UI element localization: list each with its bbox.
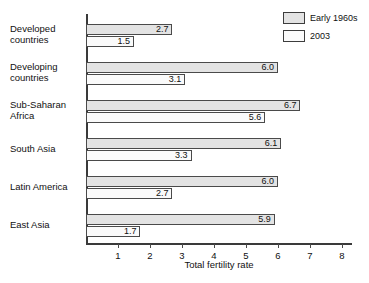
- bar-value-label: 5.9: [258, 215, 274, 224]
- category-label-south-asia: South Asia: [10, 143, 86, 155]
- x-axis-tick-1: [118, 244, 119, 248]
- bar-value-label: 2.7: [156, 189, 172, 198]
- category-label-east-asia: East Asia: [10, 219, 86, 231]
- bar-east-asia-early-1960s: 5.9: [86, 214, 275, 225]
- bar-south-asia-2003: 3.3: [86, 150, 192, 161]
- category-label-developing-countries: Developing countries: [10, 61, 86, 84]
- x-axis-tick-8: [342, 244, 343, 248]
- bar-developed-countries-2003: 1.5: [86, 36, 134, 47]
- bar-sub-saharan-africa-early-1960s: 6.7: [86, 100, 300, 111]
- category-label-sub-saharan-africa: Sub-Saharan Africa: [10, 99, 86, 122]
- x-axis-tick-6: [278, 244, 279, 248]
- category-label-developed-countries: Developed countries: [10, 23, 86, 46]
- bar-value-label: 6.0: [261, 177, 277, 186]
- bar-south-asia-early-1960s: 6.1: [86, 138, 281, 149]
- x-axis-tick-3: [182, 244, 183, 248]
- x-axis-tick-4: [214, 244, 215, 248]
- x-axis-tick-7: [310, 244, 311, 248]
- bar-value-label: 6.1: [265, 139, 281, 148]
- x-axis-title: Total fertility rate: [86, 259, 352, 270]
- bar-latin-america-2003: 2.7: [86, 188, 172, 199]
- x-axis-tick-2: [150, 244, 151, 248]
- bar-sub-saharan-africa-2003: 5.6: [86, 112, 265, 123]
- plot-area: 12345678 2.71.56.03.16.75.66.13.36.02.75…: [86, 14, 352, 243]
- x-axis-line: [86, 243, 352, 245]
- category-axis-labels: Developed countries Developing countries…: [10, 14, 84, 243]
- bar-value-label: 3.1: [169, 75, 185, 84]
- bar-value-label: 5.6: [249, 113, 265, 122]
- bar-developing-countries-early-1960s: 6.0: [86, 62, 278, 73]
- bar-east-asia-2003: 1.7: [86, 226, 140, 237]
- bar-latin-america-early-1960s: 6.0: [86, 176, 278, 187]
- x-axis-tick-5: [246, 244, 247, 248]
- category-label-latin-america: Latin America: [10, 181, 86, 193]
- fertility-rate-bar-chart: Early 1960s 2003 Developed countries Dev…: [0, 0, 369, 283]
- bar-developing-countries-2003: 3.1: [86, 74, 185, 85]
- bar-value-label: 1.5: [117, 37, 133, 46]
- bar-value-label: 6.7: [284, 101, 300, 110]
- bar-value-label: 1.7: [124, 227, 140, 236]
- bar-value-label: 3.3: [175, 151, 191, 160]
- bar-developed-countries-early-1960s: 2.7: [86, 24, 172, 35]
- bar-value-label: 2.7: [156, 25, 172, 34]
- bar-value-label: 6.0: [261, 63, 277, 72]
- y-axis-line: [86, 14, 88, 243]
